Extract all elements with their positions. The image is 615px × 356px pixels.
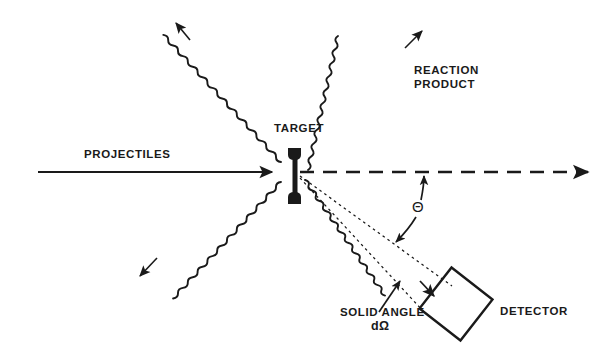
solid-angle-label-line1: SOLID ANGLE (340, 306, 425, 319)
reaction-product-label-line1: REACTION (414, 64, 479, 77)
target-label: TARGET (274, 122, 324, 135)
scattering-diagram: PROJECTILES TARGET REACTION PRODUCT Θ SO… (0, 0, 615, 356)
diagram-canvas (0, 0, 615, 356)
reaction-product-label-line2: PRODUCT (414, 78, 475, 91)
solid-angle-label-line2: dΩ (371, 320, 389, 333)
theta-angle-label: Θ (412, 200, 424, 213)
wave-upper-right-reaction-product (308, 31, 422, 170)
wave-lower-right-to-detector (279, 179, 434, 296)
wave-lower-left (140, 182, 281, 298)
projectiles-label: PROJECTILES (84, 148, 170, 161)
wave-upper-left (163, 23, 281, 162)
detector-body (420, 268, 493, 341)
target-foil (288, 148, 301, 204)
detector-label: DETECTOR (500, 305, 568, 318)
